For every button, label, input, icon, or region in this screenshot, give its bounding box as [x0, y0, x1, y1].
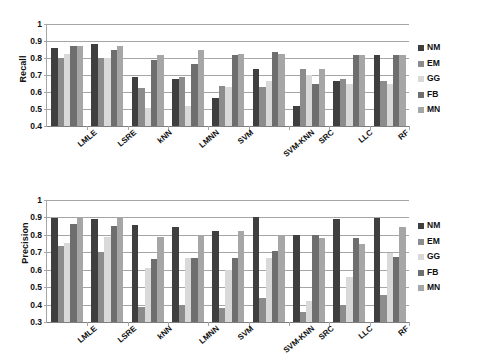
bar [319, 69, 325, 126]
legend-item: NM [418, 42, 440, 53]
x-tick-mark [208, 322, 209, 326]
bar [319, 238, 325, 322]
bar [157, 237, 163, 322]
bar [278, 54, 284, 126]
x-tick-label: kNN [155, 324, 173, 341]
legend-swatch [418, 107, 424, 113]
bar [359, 55, 365, 126]
legend-item: GG [418, 73, 440, 84]
bar [117, 46, 123, 126]
x-axis-labels-recall: LMLELSREkNNLMNNSVMSVM-KNNSRCLLCRF [0, 2, 483, 48]
bar [293, 235, 299, 322]
bar [238, 54, 244, 126]
bar [198, 235, 204, 322]
y-tick-label: 0.8 [30, 230, 42, 240]
x-tick-mark [87, 322, 88, 326]
x-tick-label: LLC [357, 128, 375, 145]
legend-label: EM [427, 58, 440, 69]
y-tick-label: 0.6 [30, 87, 42, 97]
x-tick-label: SVM [236, 324, 255, 342]
x-axis-line [47, 322, 409, 323]
legend-item: GG [418, 251, 440, 262]
x-tick-label: LMNN [197, 128, 220, 150]
y-tick-label: 0.4 [30, 121, 42, 131]
legend-swatch [418, 76, 424, 82]
legend-label: MN [427, 282, 440, 293]
legend-swatch [418, 285, 424, 291]
x-tick-label: LSRE [116, 128, 138, 149]
legend-item: FB [418, 89, 438, 100]
legend-label: GG [427, 73, 440, 84]
y-tick-label: 0.7 [30, 247, 42, 257]
y-tick-label: 0.5 [30, 282, 42, 292]
y-tick-mark [44, 126, 47, 127]
y-tick-label: 0.6 [30, 265, 42, 275]
bar [198, 50, 204, 127]
bar [157, 55, 163, 126]
legend-swatch [418, 239, 424, 245]
x-tick-mark [87, 126, 88, 130]
x-tick-label: SRC [317, 324, 336, 342]
legend-label: NM [427, 42, 440, 53]
x-tick-mark [208, 126, 209, 130]
bar [117, 218, 123, 322]
y-tick-label: 0.7 [30, 70, 42, 80]
x-tick-mark [289, 126, 290, 130]
legend-label: FB [427, 267, 438, 278]
bar [238, 231, 244, 323]
bar [399, 55, 405, 126]
bar [77, 46, 83, 126]
legend-swatch [418, 61, 424, 67]
legend-swatch [418, 270, 424, 276]
bar [399, 227, 405, 322]
legend-label: FB [427, 89, 438, 100]
legend-item: EM [418, 236, 440, 247]
x-tick-label: LSRE [116, 324, 138, 345]
bar [359, 244, 365, 322]
x-tick-label: LLC [357, 324, 375, 341]
x-tick-label: kNN [155, 128, 173, 145]
x-tick-label: RF [396, 324, 410, 338]
x-tick-mark [409, 126, 410, 130]
x-tick-label: SRC [317, 128, 336, 146]
chart-panel-recall: Recall 0.40.50.60.70.80.91 LMLELSREkNNLM… [0, 2, 483, 178]
legend-item: EM [418, 58, 440, 69]
legend-label: MN [427, 104, 440, 115]
legend-item: FB [418, 267, 438, 278]
x-tick-label: LMLE [76, 128, 98, 149]
x-tick-label: SVM [236, 128, 255, 146]
x-tick-mark [409, 322, 410, 326]
x-axis-labels-precision: LMLELSREkNNLMNNSVMSVM-KNNSRCLLCRF [0, 180, 483, 226]
legend-swatch [418, 254, 424, 260]
x-tick-label: LMNN [197, 324, 220, 346]
bar [77, 217, 83, 322]
legend-swatch [418, 45, 424, 51]
y-tick-label: 0.8 [30, 53, 42, 63]
x-tick-mark [289, 322, 290, 326]
y-tick-label: 0.3 [30, 317, 42, 327]
legend-swatch [418, 92, 424, 98]
legend-label: GG [427, 251, 440, 262]
x-axis-line [47, 126, 409, 127]
legend-swatch [418, 223, 424, 229]
y-tick-label: 0.4 [30, 300, 42, 310]
legend-label: NM [427, 220, 440, 231]
legend-label: EM [427, 236, 440, 247]
bar [278, 235, 284, 322]
figure: Recall 0.40.50.60.70.80.91 LMLELSREkNNLM… [0, 0, 483, 355]
x-tick-label: SVM-KNN [281, 324, 315, 355]
x-tick-label: RF [396, 128, 410, 142]
x-tick-label: SVM-KNN [281, 128, 315, 159]
legend-item: MN [418, 282, 440, 293]
y-tick-mark [44, 322, 47, 323]
chart-panel-precision: Precision 0.30.40.50.60.70.80.91 LMLELSR… [0, 180, 483, 355]
x-tick-label: LMLE [76, 324, 98, 345]
legend-item: MN [418, 104, 440, 115]
legend-item: NM [418, 220, 440, 231]
y-tick-label: 0.5 [30, 104, 42, 114]
